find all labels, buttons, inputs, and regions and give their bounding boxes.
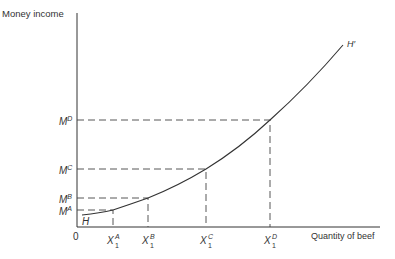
curve-end-label: H′ <box>347 40 355 49</box>
x-label-xd: XD1 <box>264 236 271 246</box>
x-axis-label: Quantity of beef <box>311 232 375 241</box>
y-axis-label: Money income <box>2 9 64 19</box>
guide-c <box>77 169 206 227</box>
y-label-md: MD <box>59 115 72 127</box>
x-label-xa: XA1 <box>107 236 114 246</box>
y-label-mb: MB <box>59 193 72 205</box>
curve-start-label: H <box>82 217 89 227</box>
y-label-mc: MC <box>59 164 72 176</box>
x-label-xb: XB1 <box>142 236 149 246</box>
origin-label: 0 <box>73 232 79 242</box>
y-label-ma: MA <box>59 205 72 217</box>
curve-hh <box>82 45 343 215</box>
indifference-diagram <box>0 0 395 259</box>
x-label-xc: XC1 <box>200 236 207 246</box>
